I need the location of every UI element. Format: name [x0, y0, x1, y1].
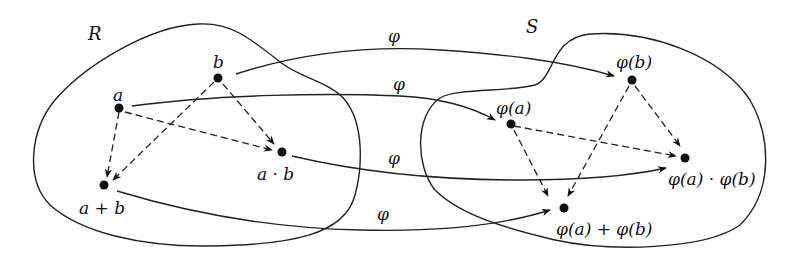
label-phi-a-times-phi-b: φ(a) · φ(b) [668, 169, 756, 189]
label-phi-a-plus-phi-b: φ(a) + φ(b) [556, 219, 652, 239]
label-phi-a: φ(a) [496, 98, 531, 118]
op-phi-b-to-product [635, 86, 680, 146]
label-a-times-b: a · b [257, 164, 294, 184]
point-phi-a-times-phi-b [681, 154, 690, 163]
op-b-to-product [223, 84, 274, 144]
label-a: a [113, 85, 123, 105]
point-phi-a-plus-phi-b [560, 204, 569, 213]
phi-arrow-a-times-b [292, 156, 666, 180]
point-phi-b [628, 76, 637, 85]
op-a-to-sum [107, 112, 119, 177]
point-b [214, 74, 223, 83]
phi-arrow-b [236, 49, 614, 76]
phi-label-a: φ [393, 74, 405, 94]
set-r-label: R [87, 23, 102, 44]
op-phi-a-to-product [514, 126, 676, 156]
point-phi-a [507, 120, 516, 129]
label-a-plus-b: a + b [79, 198, 125, 218]
op-phi-b-to-sum [568, 86, 629, 196]
homomorphism-diagram: R S φ φ φ φ a b a + b a · b φ(a) φ(b) φ(… [0, 0, 808, 258]
op-phi-a-to-sum [514, 130, 548, 196]
phi-label-b: φ [388, 26, 400, 46]
phi-label-a-times-b: φ [388, 148, 400, 168]
point-a-plus-b [100, 181, 109, 190]
phi-label-a-plus-b: φ [377, 204, 389, 224]
point-a-times-b [278, 148, 287, 157]
op-a-to-product [125, 112, 272, 150]
label-b: b [213, 52, 224, 72]
op-b-to-sum [113, 82, 214, 180]
set-s-label: S [526, 16, 538, 37]
label-phi-b: φ(b) [616, 52, 652, 72]
